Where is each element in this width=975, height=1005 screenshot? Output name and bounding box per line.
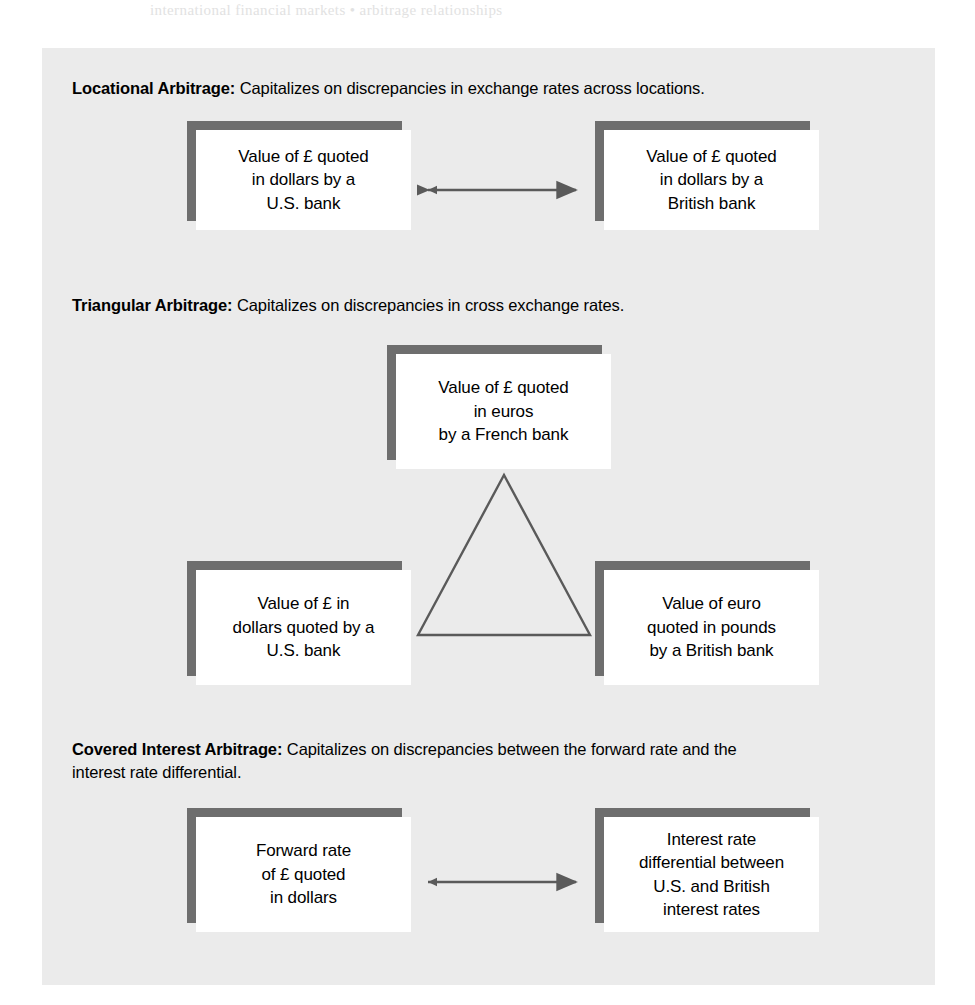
box-card: Forward rate of £ quoted in dollars — [196, 817, 411, 932]
box-text: Value of £ in dollars quoted by a U.S. b… — [233, 592, 375, 663]
heading-triangular-term: Triangular Arbitrage: — [72, 296, 232, 314]
box-text: Value of euro quoted in pounds by a Brit… — [647, 592, 776, 663]
box-covered-left: Forward rate of £ quoted in dollars — [187, 808, 402, 923]
box-text: Forward rate of £ quoted in dollars — [256, 839, 351, 910]
box-text: Interest rate differential between U.S. … — [639, 828, 784, 922]
heading-triangular-description: Capitalizes on discrepancies in cross ex… — [232, 296, 624, 314]
box-text: Value of £ quoted in dollars by a Britis… — [646, 145, 776, 216]
box-text: Value of £ quoted in euros by a French b… — [438, 376, 568, 447]
box-card: Interest rate differential between U.S. … — [604, 817, 819, 932]
page-bleed-text: international financial markets • arbitr… — [150, 2, 850, 19]
box-card: Value of £ quoted in dollars by a Britis… — [604, 130, 819, 230]
box-text: Value of £ quoted in dollars by a U.S. b… — [238, 145, 368, 216]
box-locational-right: Value of £ quoted in dollars by a Britis… — [595, 121, 810, 221]
arbitrage-exhibit-panel: Locational Arbitrage: Capitalizes on dis… — [42, 48, 935, 985]
arrow-covered-interest — [417, 870, 587, 894]
heading-locational-description: Capitalizes on discrepancies in exchange… — [235, 79, 705, 97]
box-triangular-left: Value of £ in dollars quoted by a U.S. b… — [187, 561, 402, 676]
heading-covered-interest: Covered Interest Arbitrage: Capitalizes … — [72, 738, 932, 784]
heading-triangular: Triangular Arbitrage: Capitalizes on dis… — [72, 294, 922, 317]
heading-covered-interest-description: Capitalizes on discrepancies between the… — [282, 740, 736, 758]
box-triangular-top: Value of £ quoted in euros by a French b… — [387, 345, 602, 460]
box-card: Value of £ quoted in euros by a French b… — [396, 354, 611, 469]
heading-locational-term: Locational Arbitrage: — [72, 79, 235, 97]
heading-locational: Locational Arbitrage: Capitalizes on dis… — [72, 77, 922, 100]
box-triangular-right: Value of euro quoted in pounds by a Brit… — [595, 561, 810, 676]
heading-covered-interest-description-line2: interest rate differential. — [72, 763, 241, 781]
heading-covered-interest-term: Covered Interest Arbitrage: — [72, 740, 282, 758]
arrow-locational — [417, 178, 587, 202]
box-card: Value of £ in dollars quoted by a U.S. b… — [196, 570, 411, 685]
box-card: Value of £ quoted in dollars by a U.S. b… — [196, 130, 411, 230]
box-covered-right: Interest rate differential between U.S. … — [595, 808, 810, 923]
box-locational-left: Value of £ quoted in dollars by a U.S. b… — [187, 121, 402, 221]
box-card: Value of euro quoted in pounds by a Brit… — [604, 570, 819, 685]
